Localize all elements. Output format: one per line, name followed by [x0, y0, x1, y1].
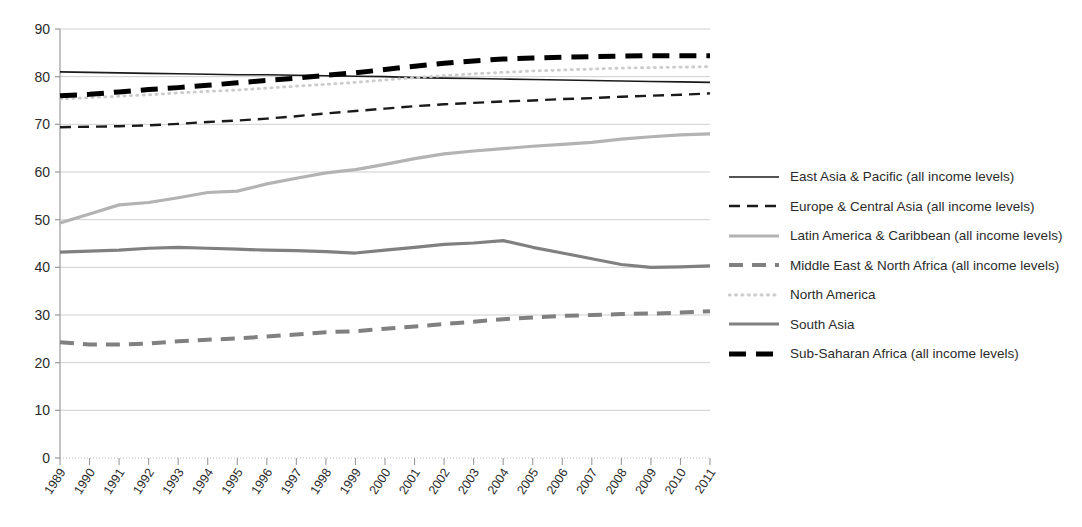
legend-line-swatch-icon: [728, 347, 780, 361]
x-axis-tick-label: 1991: [101, 466, 128, 497]
y-axis-tick-label: 20: [34, 355, 50, 371]
x-axis-tick-label: 1993: [160, 466, 187, 497]
data-series-group: [60, 56, 710, 345]
x-axis-tick-label: 1995: [219, 466, 246, 497]
legend-item[interactable]: East Asia & Pacific (all income levels): [728, 162, 1078, 192]
y-axis-tick-label: 0: [42, 450, 50, 466]
x-axis-tick-label: 1998: [308, 466, 335, 497]
legend-item-label: North America: [790, 287, 876, 302]
plot-area: 0102030405060708090 19891990199119921993…: [0, 0, 720, 527]
y-axis-tick-label: 30: [34, 307, 50, 323]
x-axis-labels: 1989199019911992199319941995199619971998…: [42, 466, 719, 497]
y-axis-tick-label: 70: [34, 116, 50, 132]
legend-line-swatch-icon: [728, 170, 780, 184]
legend-item-label: Middle East & North Africa (all income l…: [790, 258, 1059, 273]
series-line-1: [60, 93, 710, 127]
legend-item[interactable]: Sub-Saharan Africa (all income levels): [728, 339, 1078, 369]
x-axis-tick-label: 2002: [426, 466, 453, 497]
y-axis-ticks: [55, 29, 60, 458]
y-axis-tick-label: 10: [34, 402, 50, 418]
legend-item-label: East Asia & Pacific (all income levels): [790, 169, 1014, 184]
series-line-3: [60, 311, 710, 344]
legend-item[interactable]: Middle East & North Africa (all income l…: [728, 251, 1078, 281]
y-axis-tick-label: 50: [34, 212, 50, 228]
y-axis-tick-label: 60: [34, 164, 50, 180]
legend-item[interactable]: North America: [728, 280, 1078, 310]
legend-item[interactable]: Europe & Central Asia (all income levels…: [728, 192, 1078, 222]
series-line-5: [60, 241, 710, 268]
series-line-6: [60, 56, 710, 96]
x-axis-tick-label: 2008: [603, 466, 630, 497]
y-axis-tick-label: 80: [34, 69, 50, 85]
x-axis-tick-label: 2000: [367, 466, 394, 497]
x-axis-tick-label: 2005: [514, 466, 541, 497]
x-axis-tick-label: 2010: [662, 466, 689, 497]
x-axis-ticks: [60, 458, 710, 465]
chart-legend: East Asia & Pacific (all income levels)E…: [728, 162, 1078, 369]
x-axis-tick-label: 1990: [71, 466, 98, 497]
y-axis-labels: 0102030405060708090: [34, 21, 50, 466]
chart-figure: 0102030405060708090 19891990199119921993…: [0, 0, 1082, 527]
series-line-2: [60, 134, 710, 223]
x-axis-tick-label: 2006: [544, 466, 571, 497]
x-axis-tick-label: 1992: [130, 466, 157, 497]
legend-line-swatch-icon: [728, 317, 780, 331]
x-axis-tick-label: 2001: [396, 466, 423, 497]
x-axis-tick-label: 1996: [248, 466, 275, 497]
legend-item[interactable]: Latin America & Caribbean (all income le…: [728, 221, 1078, 251]
legend-item[interactable]: South Asia: [728, 310, 1078, 340]
y-axis-tick-label: 90: [34, 21, 50, 37]
legend-item-label: Sub-Saharan Africa (all income levels): [790, 346, 1019, 361]
legend-line-swatch-icon: [728, 199, 780, 213]
legend-line-swatch-icon: [728, 229, 780, 243]
legend-line-swatch-icon: [728, 258, 780, 272]
line-chart-svg: 0102030405060708090 19891990199119921993…: [0, 0, 720, 527]
x-axis-tick-label: 1999: [337, 466, 364, 497]
x-axis-tick-label: 1989: [42, 466, 69, 497]
x-axis-tick-label: 2009: [633, 466, 660, 497]
legend-item-label: South Asia: [790, 317, 855, 332]
x-axis-tick-label: 2004: [485, 466, 512, 497]
legend-item-label: Latin America & Caribbean (all income le…: [790, 228, 1062, 243]
x-axis-tick-label: 2003: [455, 466, 482, 497]
x-axis-tick-label: 2011: [692, 466, 718, 496]
x-axis-tick-label: 1994: [189, 466, 216, 497]
y-axis-tick-label: 40: [34, 259, 50, 275]
x-axis-tick-label: 2007: [573, 466, 600, 497]
legend-line-swatch-icon: [728, 288, 780, 302]
legend-item-label: Europe & Central Asia (all income levels…: [790, 199, 1035, 214]
x-axis-tick-label: 1997: [278, 466, 305, 497]
